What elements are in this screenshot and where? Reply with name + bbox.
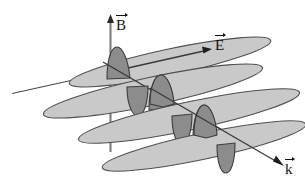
vector-arrow-icon xyxy=(116,13,127,18)
b-label-text: B xyxy=(116,17,126,33)
vector-arrow-icon xyxy=(285,157,294,162)
emwave-diagram: B E k xyxy=(0,0,305,188)
vector-arrow-icon xyxy=(215,33,225,38)
b-vector-label: B xyxy=(116,13,126,33)
diagram-canvas xyxy=(0,0,305,188)
k-label-text: k xyxy=(285,161,293,177)
e-vector-label: E xyxy=(215,33,224,53)
k-vector-label: k xyxy=(285,157,293,177)
wave-lobe-6 xyxy=(217,143,235,173)
e-label-text: E xyxy=(215,37,224,53)
